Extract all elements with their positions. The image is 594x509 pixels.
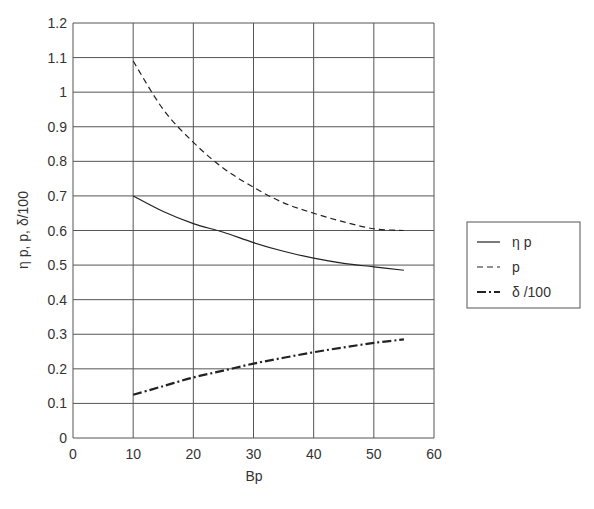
y-tick-label: 1.2 [48,15,68,31]
y-tick-label: 0.9 [48,119,68,135]
y-tick-label: 0.2 [48,361,68,377]
y-axis-ticks: 00.10.20.30.40.50.60.70.80.911.11.2 [48,15,68,446]
y-axis-label: η p, p, δ/100 [15,191,31,269]
x-tick-label: 40 [306,446,322,462]
series-line-1 [133,61,404,230]
legend-label: p [512,259,520,275]
x-tick-label: 30 [246,446,262,462]
y-tick-label: 0.8 [48,153,68,169]
chart-series [133,61,404,395]
x-tick-label: 50 [366,446,382,462]
y-tick-label: 0.3 [48,326,68,342]
x-tick-label: 20 [186,446,202,462]
y-tick-label: 0.5 [48,257,68,273]
y-tick-label: 0.7 [48,188,68,204]
series-line-2 [133,339,404,394]
x-tick-label: 0 [69,446,77,462]
chart: 00.10.20.30.40.50.60.70.80.911.11.2 0102… [0,0,594,509]
y-tick-label: 0 [59,430,67,446]
y-tick-label: 1.1 [48,50,68,66]
chart-grid [73,23,434,438]
series-line-0 [133,196,404,270]
y-tick-label: 0.4 [48,292,68,308]
legend: η ppδ /100 [467,222,580,308]
x-tick-label: 10 [125,446,141,462]
x-axis-label: Bp [245,468,262,484]
y-tick-label: 1 [59,84,67,100]
x-tick-label: 60 [426,446,442,462]
y-tick-label: 0.1 [48,395,68,411]
x-axis-ticks: 0102030405060 [69,446,442,462]
legend-label: δ /100 [512,284,551,300]
y-tick-label: 0.6 [48,223,68,239]
legend-label: η p [512,234,532,250]
